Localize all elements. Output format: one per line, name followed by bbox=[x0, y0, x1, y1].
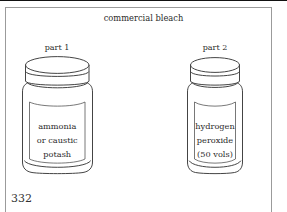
jar-2-cap-top bbox=[191, 58, 240, 73]
jar-part-1: part 1 ammonia or caustic potash bbox=[23, 43, 93, 174]
jar-2-part-label: part 2 bbox=[203, 43, 228, 52]
jar-1-label-line-3: potash bbox=[43, 149, 72, 159]
jar-2-label-line-3: (50 vols) bbox=[197, 149, 233, 159]
figure-title: commercial bleach bbox=[104, 13, 184, 23]
jar-part-2: part 2 hydrogen peroxide (50 vols) bbox=[188, 43, 243, 174]
jar-1-part-label: part 1 bbox=[45, 43, 70, 52]
jar-1-label-line-1: ammonia bbox=[38, 121, 76, 131]
jar-1-cap-top bbox=[26, 57, 90, 74]
page-number: 332 bbox=[11, 192, 32, 205]
jar-1-label-line-2: or caustic bbox=[37, 135, 78, 145]
bleach-diagram: commercial bleach part 1 ammonia or caus… bbox=[0, 1, 287, 212]
jar-2-label-line-1: hydrogen bbox=[195, 121, 235, 131]
jar-2-label-line-2: peroxide bbox=[197, 135, 233, 145]
page-canvas: commercial bleach part 1 ammonia or caus… bbox=[0, 0, 287, 212]
